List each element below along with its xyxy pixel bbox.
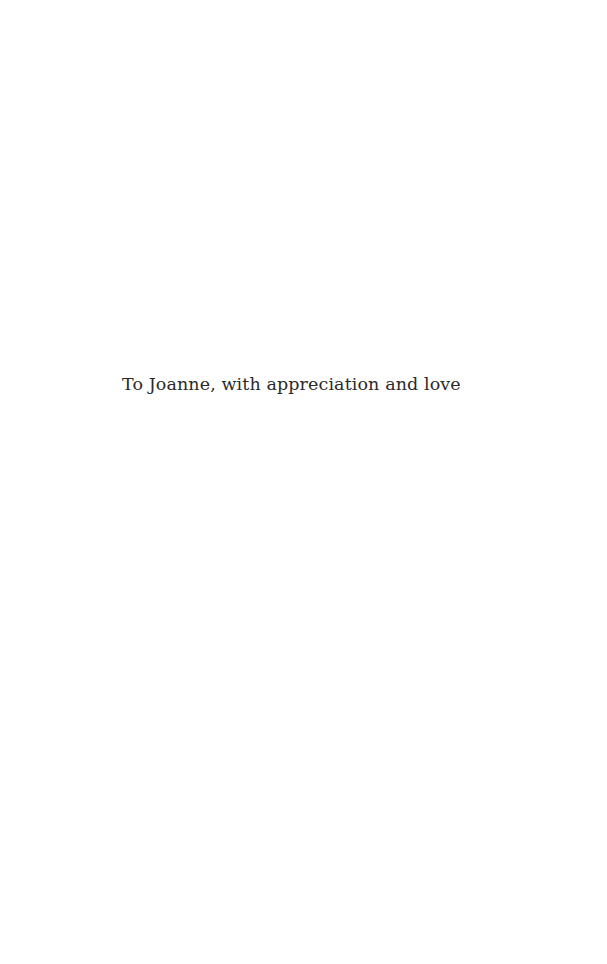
dedication-text: To Joanne, with appreciation and love xyxy=(122,374,461,396)
dedication-page: To Joanne, with appreciation and love xyxy=(0,0,607,964)
